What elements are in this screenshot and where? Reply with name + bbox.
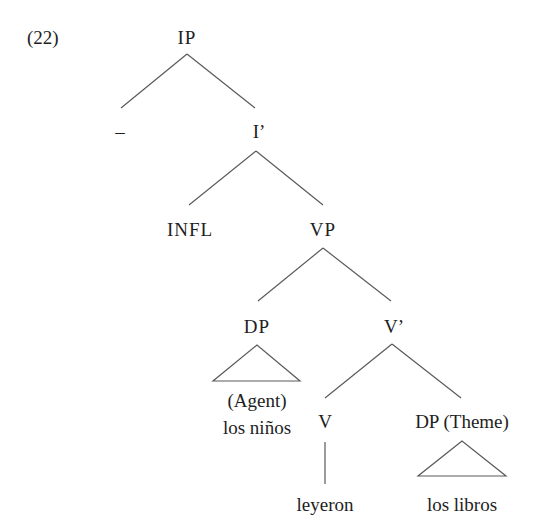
v-terminal: leyeron xyxy=(297,494,354,515)
triangle-dp-theme xyxy=(418,441,506,476)
edge-vp-vbar xyxy=(323,248,391,301)
example-number: (22) xyxy=(27,27,59,49)
theme-terminal: los libros xyxy=(427,494,497,515)
syntax-tree-diagram: (22) IP – I’ INFL VP DP (Agent) los niño… xyxy=(0,0,546,527)
node-dp-agent: DP xyxy=(244,316,270,337)
node-v-bar: V’ xyxy=(384,316,404,337)
node-infl: INFL xyxy=(167,219,213,240)
edge-ip-spec xyxy=(121,54,187,108)
edge-vbar-v xyxy=(325,344,392,398)
agent-role-label: (Agent) xyxy=(227,390,286,412)
node-dp-theme: DP (Theme) xyxy=(415,411,509,433)
edge-vp-dp xyxy=(258,248,323,301)
node-spec-ip-empty: – xyxy=(114,121,125,142)
node-vp: VP xyxy=(310,219,336,240)
node-v: V xyxy=(318,411,332,432)
edge-vbar-dp-theme xyxy=(392,344,461,398)
node-ip: IP xyxy=(178,27,197,48)
edge-ibar-infl xyxy=(189,151,256,205)
node-i-bar: I’ xyxy=(253,121,266,142)
triangle-dp-agent xyxy=(213,345,300,381)
edge-ip-ibar xyxy=(187,54,255,108)
edge-ibar-vp xyxy=(256,151,323,205)
agent-terminal: los niños xyxy=(223,417,291,438)
